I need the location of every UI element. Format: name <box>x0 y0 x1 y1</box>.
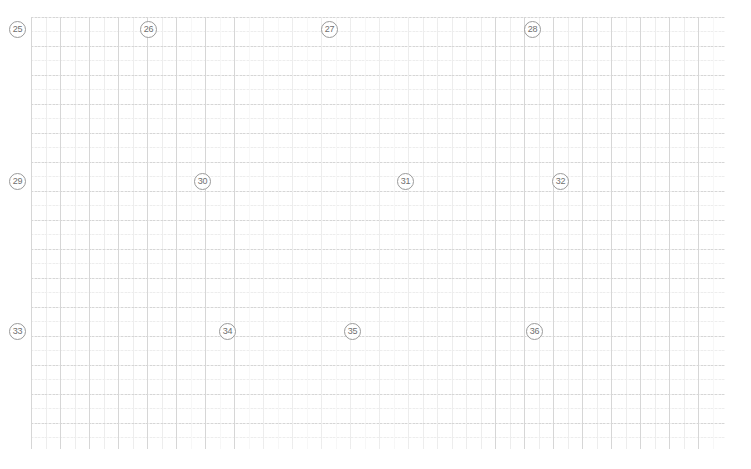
marker-27[interactable]: 27 <box>321 21 338 38</box>
marker-32[interactable]: 32 <box>552 173 569 190</box>
marker-35[interactable]: 35 <box>344 323 361 340</box>
marker-28[interactable]: 28 <box>524 21 541 38</box>
grid-sheet-page: 252627282930313233343536 <box>0 0 751 469</box>
marker-36[interactable]: 36 <box>526 323 543 340</box>
marker-33[interactable]: 33 <box>9 323 26 340</box>
graph-paper-grid <box>31 17 725 449</box>
marker-30[interactable]: 30 <box>194 173 211 190</box>
marker-34[interactable]: 34 <box>219 323 236 340</box>
marker-29[interactable]: 29 <box>9 173 26 190</box>
marker-26[interactable]: 26 <box>140 21 157 38</box>
marker-25[interactable]: 25 <box>9 21 26 38</box>
marker-31[interactable]: 31 <box>397 173 414 190</box>
